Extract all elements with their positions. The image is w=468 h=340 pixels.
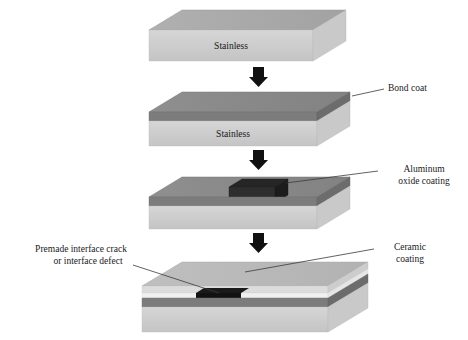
callout-aluminum-oxide-label-line1: Aluminum — [403, 164, 445, 174]
step-2-bond-coat-top-face — [149, 92, 350, 112]
callout-bond-coat-label: Bond coat — [388, 83, 427, 93]
step-3-stainless-front-face — [149, 206, 317, 229]
step-4-interface-crack-top — [196, 288, 249, 293]
step-4-stainless-front-face — [142, 307, 328, 332]
diagram-canvas: Stainless Stainless Bond coat — [0, 0, 468, 340]
callout-aluminum-oxide-label-line2: oxide coating — [398, 176, 450, 186]
step-4-block — [142, 262, 368, 332]
arrow-step3-to-step4 — [249, 233, 268, 253]
step-4-interface-crack — [196, 293, 241, 298]
callout-ceramic-coating-label-line1: Ceramic — [394, 242, 426, 252]
step-3-block — [149, 177, 350, 229]
step-1-block: Stainless — [149, 10, 346, 61]
callout-premade-crack-label-line1: Premade interface crack — [35, 244, 127, 254]
arrow-step1-to-step2 — [249, 67, 268, 87]
arrow-step2-to-step3 — [249, 150, 268, 170]
callout-bond-coat: Bond coat — [352, 83, 427, 96]
step-4-bond-coat-front-face — [142, 298, 328, 307]
step-3-bond-coat-front-face — [149, 197, 317, 206]
step-1-stainless-top-face — [149, 10, 346, 30]
step-2-bond-coat-front-face — [149, 112, 317, 121]
step-2-block: Stainless — [149, 92, 350, 146]
step-2-block-label: Stainless — [216, 129, 250, 139]
process-diagram: Stainless Stainless Bond coat — [0, 0, 468, 340]
callout-ceramic-coating-label-line2: coating — [396, 254, 424, 264]
callout-premade-crack-label-line2: or interface defect — [53, 256, 122, 266]
step-1-block-label: Stainless — [214, 41, 248, 51]
